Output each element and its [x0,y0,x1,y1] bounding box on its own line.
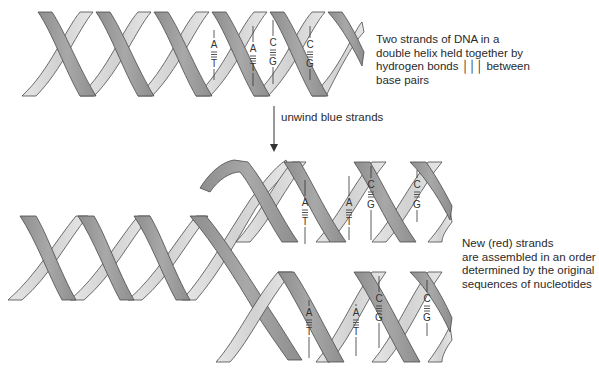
unwind-arrow-label: unwind blue strands [281,111,383,123]
base-label: A [250,43,257,54]
base-label: T [346,216,352,227]
unwind-arrow [270,106,278,152]
base-label: G [269,56,277,67]
base-label: G [367,199,375,210]
base-label: T [211,58,217,69]
base-label: C [367,179,374,190]
base-label: C [306,39,313,50]
base-label: T [250,62,256,73]
base-label: A [353,307,360,318]
top-double-helix: A T A T C G C G [22,12,364,96]
base-label: A [346,197,353,208]
base-label: A [302,197,309,208]
base-label: T [302,216,308,227]
base-label: G [375,312,383,323]
base-label: G [306,58,314,69]
base-label: G [423,312,431,323]
base-label: C [423,293,430,304]
top-helix-caption: Two strands of DNA in a double helix hel… [376,33,596,87]
base-label: A [211,39,218,50]
base-label: T [306,326,312,337]
base-label: C [269,37,276,48]
base-label: C [413,179,420,190]
base-label: A [306,307,313,318]
base-label: C [375,293,382,304]
new-strands-caption: New (red) strands are assembled in an or… [462,237,599,291]
base-label: T [353,326,359,337]
base-label: G [413,199,421,210]
